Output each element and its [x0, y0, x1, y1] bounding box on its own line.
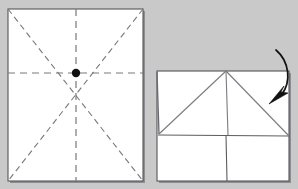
panel-left: [8, 9, 145, 183]
diagram-canvas: [0, 0, 298, 189]
center-point: [72, 69, 80, 77]
right-sheet-paper: [157, 71, 289, 181]
origami-diagram: [0, 0, 298, 189]
